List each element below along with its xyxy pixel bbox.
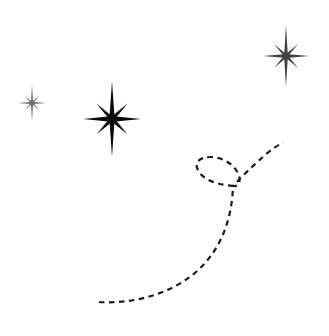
scene-svg: [0, 0, 329, 336]
star-core: [108, 115, 117, 124]
illustration-canvas: [0, 0, 329, 336]
star-core: [283, 53, 289, 59]
star-core: [30, 101, 34, 105]
